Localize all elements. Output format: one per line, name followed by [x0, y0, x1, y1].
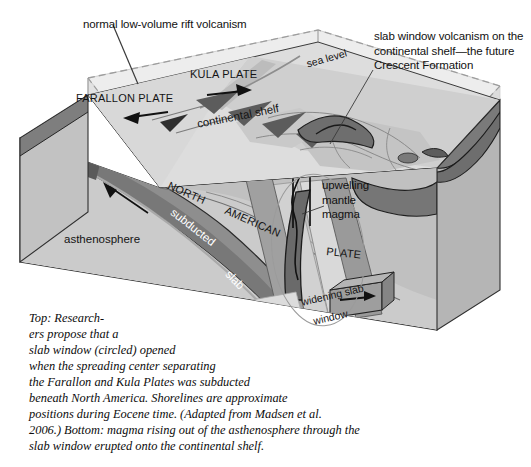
label-farallon-plate: FARALLON PLATE	[76, 92, 173, 104]
annotation-upwelling-mantle-magma: upwelling mantle magma	[322, 178, 369, 222]
figure-caption: Top: Research- ers propose that a slab w…	[29, 311, 369, 454]
figure-root: normal low-volume rift volcanism slab wi…	[0, 0, 531, 467]
label-kula-plate: KULA PLATE	[190, 68, 257, 80]
label-asthenosphere: asthenosphere	[64, 233, 140, 245]
annotation-rift-volcanism: normal low-volume rift volcanism	[83, 17, 247, 32]
annotation-slab-window-volcanism: slab window volcanism on the continental…	[374, 29, 523, 73]
